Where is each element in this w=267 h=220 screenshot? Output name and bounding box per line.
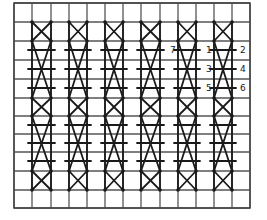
stitch-point bbox=[121, 96, 125, 100]
stitch-point bbox=[49, 114, 53, 118]
stitch-point bbox=[30, 188, 34, 192]
stitch-point bbox=[103, 39, 107, 43]
stitch-column bbox=[210, 20, 236, 192]
stitch-point bbox=[30, 39, 34, 43]
stitch-point bbox=[194, 169, 198, 173]
stitch-point bbox=[158, 188, 162, 192]
stitch-point bbox=[230, 20, 234, 24]
stitch-point bbox=[212, 39, 216, 43]
stitch-point bbox=[158, 96, 162, 100]
step-label: 2 bbox=[240, 45, 246, 55]
stitch-point bbox=[103, 188, 107, 192]
stitch-column bbox=[28, 20, 55, 192]
stitch-point bbox=[139, 188, 143, 192]
step-label: 5 bbox=[206, 83, 212, 93]
stitch-column bbox=[174, 20, 200, 192]
step-label: 1 bbox=[206, 45, 212, 55]
stitch-column bbox=[65, 20, 91, 192]
stitch-point bbox=[85, 96, 89, 100]
stitch-point bbox=[158, 114, 162, 118]
stitch-point bbox=[176, 169, 180, 173]
stitch-point bbox=[176, 188, 180, 192]
stitch-point bbox=[67, 169, 71, 173]
step-label: 3 bbox=[206, 64, 212, 74]
stitch-point bbox=[30, 96, 34, 100]
stitch-point bbox=[176, 20, 180, 24]
stitch-point bbox=[194, 20, 198, 24]
stitch-point bbox=[194, 96, 198, 100]
stitch-point bbox=[49, 96, 53, 100]
stitch-point bbox=[85, 188, 89, 192]
stitch-point bbox=[176, 39, 180, 43]
stitch-point bbox=[30, 114, 34, 118]
stitch-point bbox=[49, 39, 53, 43]
stitch-point bbox=[230, 169, 234, 173]
stitch-point bbox=[121, 20, 125, 24]
stitch-point bbox=[194, 188, 198, 192]
stitch-point bbox=[67, 114, 71, 118]
stitch-point bbox=[176, 114, 180, 118]
stitch-point bbox=[212, 188, 216, 192]
stitch-point bbox=[103, 169, 107, 173]
stitch-point bbox=[212, 20, 216, 24]
stitch-point bbox=[212, 114, 216, 118]
stitch-point bbox=[158, 39, 162, 43]
stitch-point bbox=[103, 114, 107, 118]
stitch-point bbox=[85, 114, 89, 118]
step-label: 6 bbox=[240, 83, 246, 93]
stitch-point bbox=[158, 20, 162, 24]
stitch-point bbox=[67, 20, 71, 24]
stitch-point bbox=[85, 169, 89, 173]
stitch-point bbox=[67, 96, 71, 100]
stitch-point bbox=[67, 188, 71, 192]
stitch-point bbox=[158, 169, 162, 173]
stitch-point bbox=[49, 188, 53, 192]
stitch-point bbox=[139, 20, 143, 24]
step-label: 7 bbox=[170, 45, 176, 55]
stitch-diagram: 7123456 bbox=[0, 0, 267, 220]
stitch-point bbox=[121, 169, 125, 173]
stitch-point bbox=[103, 20, 107, 24]
stitch-point bbox=[30, 20, 34, 24]
stitch-point bbox=[85, 39, 89, 43]
stitch-point bbox=[49, 20, 53, 24]
stitch-point bbox=[121, 114, 125, 118]
stitch-point bbox=[194, 39, 198, 43]
stitch-point bbox=[139, 114, 143, 118]
stitch-point bbox=[139, 96, 143, 100]
stitch-pattern bbox=[28, 20, 236, 192]
stitch-point bbox=[230, 114, 234, 118]
stitch-point bbox=[139, 39, 143, 43]
stitch-point bbox=[230, 96, 234, 100]
stitch-point bbox=[212, 96, 216, 100]
stitch-point bbox=[30, 169, 34, 173]
stitch-point bbox=[212, 169, 216, 173]
stitch-point bbox=[230, 188, 234, 192]
stitch-point bbox=[176, 96, 180, 100]
stitch-point bbox=[49, 169, 53, 173]
stitch-point bbox=[85, 20, 89, 24]
stitch-point bbox=[121, 39, 125, 43]
stitch-point bbox=[103, 96, 107, 100]
stitch-point bbox=[194, 114, 198, 118]
stitch-column bbox=[137, 20, 164, 192]
stitch-column bbox=[101, 20, 127, 192]
stitch-point bbox=[230, 39, 234, 43]
stitch-point bbox=[121, 188, 125, 192]
stitch-point bbox=[67, 39, 71, 43]
step-label: 4 bbox=[240, 64, 246, 74]
stitch-point bbox=[139, 169, 143, 173]
